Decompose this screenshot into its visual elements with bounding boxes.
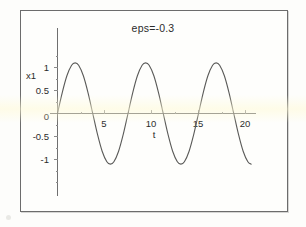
x-tick-label-20: 20 bbox=[240, 118, 251, 129]
x-tick-label-5: 5 bbox=[101, 118, 106, 129]
screenshot-root: eps=-0.3 bbox=[0, 0, 306, 227]
chart-plot-area: 1 0.5 0 -0.5 -1 5 10 15 20 x1 t bbox=[20, 10, 288, 212]
y-axis-ticks bbox=[54, 56, 58, 182]
y-tick-label-1: 1 bbox=[44, 62, 49, 73]
x-tick-label-10: 10 bbox=[146, 118, 157, 129]
x-axis-label: t bbox=[153, 129, 156, 140]
y-tick-label-neg1: -1 bbox=[41, 154, 49, 165]
scan-speck bbox=[6, 215, 11, 220]
y-tick-label-neg0_5: -0.5 bbox=[33, 131, 49, 142]
x-tick-label-15: 15 bbox=[193, 118, 204, 129]
y-tick-label-0: 0 bbox=[44, 111, 49, 122]
y-tick-label-0_5: 0.5 bbox=[36, 85, 49, 96]
y-axis-label: x1 bbox=[26, 70, 36, 81]
